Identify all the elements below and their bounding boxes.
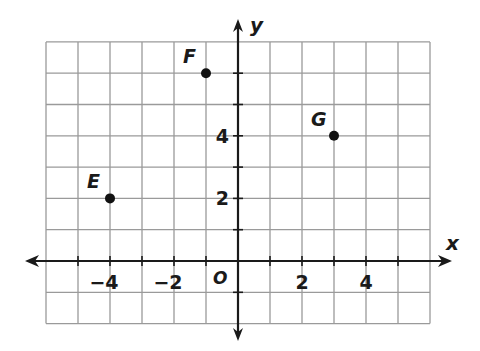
data-points: EFG — [87, 45, 339, 203]
x-tick-label: 4 — [359, 271, 372, 293]
point-label: E — [87, 170, 100, 192]
x-tick-label: 2 — [295, 271, 308, 293]
x-axis-label: x — [445, 231, 460, 255]
y-tick-label: 2 — [216, 187, 229, 209]
x-tick-label: −4 — [89, 271, 118, 293]
y-axis-label: y — [250, 13, 264, 37]
point-marker — [105, 193, 115, 203]
tick-labels: −4−22424 — [89, 125, 372, 293]
point-marker — [201, 68, 211, 78]
point-label: G — [311, 108, 327, 130]
point-label: F — [183, 45, 196, 67]
y-tick-label: 4 — [216, 125, 229, 147]
coordinate-plane: x y O −4−22424 EFG — [0, 0, 480, 351]
origin-label: O — [213, 268, 227, 288]
point-marker — [329, 131, 339, 141]
x-tick-label: −2 — [153, 271, 182, 293]
